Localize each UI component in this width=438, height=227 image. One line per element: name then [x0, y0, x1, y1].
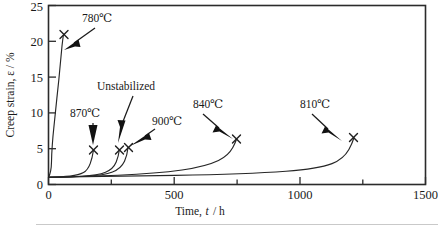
- y-tick-label: 15: [31, 71, 44, 85]
- series-label-810c: 810℃: [300, 98, 330, 110]
- x-axis-tick-labels: 0 500 1000 1500: [45, 188, 438, 202]
- curve-870c: [49, 150, 94, 177]
- y-axis-tick-labels: 0 5 10 15 20 25: [31, 0, 44, 192]
- arrow-head-900c: [130, 133, 152, 146]
- annotation-840c: 840℃: [193, 98, 233, 139]
- series-label-840c: 840℃: [193, 98, 223, 110]
- arrow-head-810c: [322, 127, 343, 142]
- series-label-780c: 780℃: [82, 12, 112, 24]
- annotation-900c: 900℃: [130, 115, 182, 146]
- marker-840c: [233, 135, 241, 143]
- series-label-870c: 870℃: [70, 107, 100, 119]
- arrow-head-780c: [64, 40, 81, 51]
- y-tick-label: 0: [37, 178, 43, 192]
- annotation-870c: 870℃: [70, 107, 100, 145]
- x-axis-title-prefix: Time,: [175, 205, 202, 218]
- marker-780c: [60, 31, 68, 39]
- series-label-900c: 900℃: [152, 115, 182, 127]
- x-axis-title: Time, t / h: [175, 205, 225, 218]
- rupture-markers: [60, 31, 358, 155]
- arrow-head-870c: [89, 125, 98, 145]
- x-axis-title-suffix: / h: [213, 205, 225, 217]
- y-tick-label: 20: [31, 35, 44, 49]
- annotation-810c: 810℃: [300, 98, 342, 141]
- curve-810c: [49, 138, 354, 177]
- x-tick-label: 500: [165, 188, 184, 202]
- x-axis-title-variable: t: [205, 205, 209, 217]
- y-axis-title: Creep strain, ε / %: [4, 52, 17, 137]
- creep-strain-figure: 0 5 10 15 20 25 0 500 1000 1500 Creep st…: [0, 0, 438, 227]
- arrow-head-840c: [213, 126, 234, 140]
- x-tick-label: 1000: [288, 188, 313, 202]
- x-tick-label: 0: [45, 188, 51, 202]
- curve-780c: [49, 35, 64, 177]
- x-tick-label: 1500: [413, 188, 438, 202]
- curve-840c: [49, 139, 237, 177]
- annotation-unstabilized: Unstabilized: [97, 80, 155, 143]
- x-axis-ticks: [49, 177, 426, 185]
- plot-frame: [49, 6, 426, 185]
- marker-900c: [125, 144, 133, 152]
- y-axis-ticks: [49, 6, 57, 185]
- annotation-780c: 780℃: [64, 12, 112, 50]
- arrow-head-unstabilized: [118, 120, 126, 143]
- y-tick-label: 10: [31, 106, 44, 120]
- y-tick-label: 5: [37, 142, 43, 156]
- series-label-unstabilized: Unstabilized: [97, 80, 155, 92]
- marker-unstabilized: [116, 146, 124, 154]
- y-tick-label: 25: [31, 0, 44, 14]
- chart-canvas: 0 5 10 15 20 25 0 500 1000 1500 Creep st…: [0, 0, 438, 227]
